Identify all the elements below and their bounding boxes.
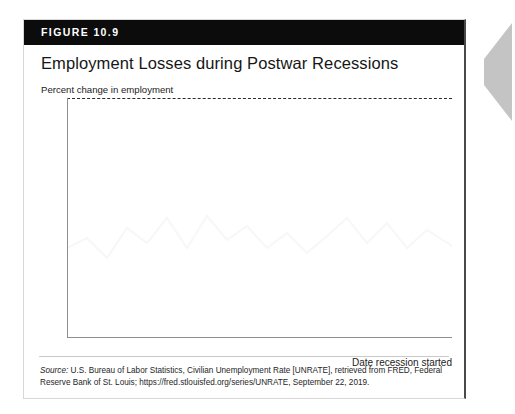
source-text: U.S. Bureau of Labor Statistics, Civilia…: [40, 366, 442, 387]
figure-number-label: FIGURE 10.9: [41, 26, 119, 38]
x-axis-line: [67, 337, 452, 338]
zero-reference-line: [67, 98, 452, 99]
chart-plot-area: Date recession started: [67, 98, 452, 338]
y-axis-title: Percent change in employment: [41, 84, 173, 95]
source-divider: [39, 356, 449, 357]
figure-title: Employment Losses during Postwar Recessi…: [41, 54, 398, 73]
bars-container: [67, 98, 452, 338]
page-edge-arrow: [476, 23, 512, 121]
y-axis-line: [67, 98, 68, 338]
source-word: Source:: [40, 366, 68, 375]
figure-header-bar: FIGURE 10.9: [24, 20, 464, 45]
figure-card: FIGURE 10.9 Employment Losses during Pos…: [23, 19, 466, 399]
source-note: Source: U.S. Bureau of Labor Statistics,…: [40, 365, 450, 388]
